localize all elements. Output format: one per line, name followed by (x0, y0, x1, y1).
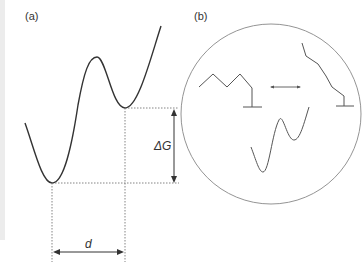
panel-a: (a) ΔG d (25, 10, 179, 262)
figure: (a) ΔG d (b) (0, 0, 364, 267)
inset-energy-curve (251, 107, 309, 172)
panel-b: (b) (181, 10, 361, 204)
molecule-extended-conformation (302, 43, 344, 106)
delta-g-label: ΔG (153, 139, 171, 153)
inset-circle (181, 24, 361, 204)
panel-a-label: (a) (25, 10, 38, 22)
molecule-bent-conformation (199, 74, 252, 107)
panel-b-label: (b) (194, 10, 207, 22)
energy-landscape-curve (25, 26, 161, 183)
distance-label: d (85, 237, 92, 251)
guide-lines (52, 108, 179, 262)
delta-g-arrow (171, 109, 177, 183)
